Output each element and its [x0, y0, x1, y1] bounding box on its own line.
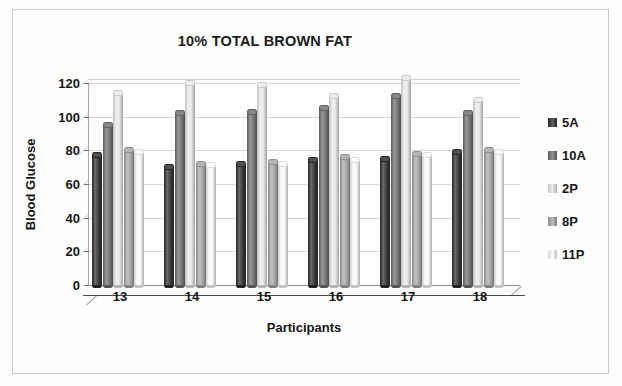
bar-8p-15 — [268, 162, 278, 285]
bar-top-ellipse — [113, 90, 123, 96]
bar-10a-16 — [319, 108, 329, 285]
bar-body — [257, 85, 267, 285]
plot-area: 020406080100120 131415161718 — [88, 83, 520, 285]
x-axis-title: Participants — [88, 320, 520, 335]
bar-11p-17 — [422, 155, 432, 285]
bar-top-ellipse — [422, 152, 432, 158]
y-axis-title-text: Blood Glucose — [24, 138, 39, 230]
chart-wall-top-edge — [88, 79, 520, 80]
bar-2p-13 — [113, 93, 123, 285]
bar-2p-16 — [329, 96, 339, 285]
bar-top-ellipse — [196, 161, 206, 167]
bar-top-ellipse — [473, 97, 483, 103]
bar-group — [88, 83, 160, 285]
bar-body — [329, 96, 339, 285]
bar-top-ellipse — [380, 156, 390, 162]
legend-label: 10A — [562, 148, 586, 163]
bar-body — [185, 83, 195, 285]
chart-legend: 5A10A2P8P11P — [548, 106, 606, 271]
bar-body — [308, 160, 318, 285]
bar-body — [319, 108, 329, 285]
bar-group — [448, 83, 520, 285]
legend-item-8p[interactable]: 8P — [548, 205, 606, 238]
legend-item-2p[interactable]: 2P — [548, 172, 606, 205]
bar-group — [232, 83, 304, 285]
bar-top-ellipse — [134, 149, 144, 155]
y-axis-title: Blood Glucose — [22, 84, 40, 284]
bar-body — [92, 155, 102, 285]
bar-body — [412, 154, 422, 285]
bar-body — [463, 113, 473, 285]
y-axis-tick-label: 0 — [73, 278, 80, 293]
bar-body — [401, 78, 411, 285]
bar-body — [473, 100, 483, 285]
bar-body — [103, 125, 113, 285]
bar-11p-15 — [278, 164, 288, 285]
legend-label: 8P — [562, 214, 578, 229]
x-axis-tick-label: 14 — [162, 289, 222, 304]
bar-body — [164, 167, 174, 285]
bar-body — [124, 150, 134, 285]
bar-5a-16 — [308, 160, 318, 285]
bar-body — [236, 164, 246, 285]
bar-5a-15 — [236, 164, 246, 285]
legend-swatch-2p — [548, 184, 557, 193]
bar-top-ellipse — [401, 75, 411, 81]
bar-8p-18 — [484, 150, 494, 285]
bar-5a-13 — [92, 155, 102, 285]
bar-top-ellipse — [340, 154, 350, 160]
y-axis-tick-label: 60 — [66, 177, 80, 192]
bar-group — [376, 83, 448, 285]
y-axis-tick-label: 20 — [66, 244, 80, 259]
x-axis-tick-label: 13 — [90, 289, 150, 304]
bar-top-ellipse — [412, 151, 422, 157]
bar-group — [304, 83, 376, 285]
bar-body — [247, 112, 257, 285]
bar-body — [422, 155, 432, 285]
bar-top-ellipse — [257, 82, 267, 88]
bar-top-ellipse — [236, 161, 246, 167]
x-axis-tick-label: 18 — [450, 289, 510, 304]
bar-top-ellipse — [484, 147, 494, 153]
bar-8p-16 — [340, 157, 350, 285]
legend-item-10a[interactable]: 10A — [548, 139, 606, 172]
chart-page: 10% TOTAL BROWN FAT Blood Glucose 020406… — [0, 0, 622, 386]
legend-swatch-8p — [548, 217, 557, 226]
bar-11p-14 — [206, 165, 216, 285]
bar-top-ellipse — [247, 109, 257, 115]
bar-top-ellipse — [124, 147, 134, 153]
legend-label: 2P — [562, 181, 578, 196]
x-axis-tick-label: 17 — [378, 289, 438, 304]
bar-5a-18 — [452, 152, 462, 285]
bar-10a-17 — [391, 96, 401, 285]
bar-body — [134, 152, 144, 285]
bar-top-ellipse — [350, 157, 360, 163]
bar-body — [391, 96, 401, 285]
bar-2p-17 — [401, 78, 411, 285]
bar-10a-13 — [103, 125, 113, 285]
legend-swatch-5a — [548, 118, 557, 127]
bar-8p-13 — [124, 150, 134, 285]
bar-top-ellipse — [494, 149, 504, 155]
bar-top-ellipse — [278, 161, 288, 167]
bar-8p-14 — [196, 164, 206, 285]
bar-body — [350, 160, 360, 285]
legend-item-11p[interactable]: 11P — [548, 238, 606, 271]
bar-top-ellipse — [164, 164, 174, 170]
bar-top-ellipse — [391, 93, 401, 99]
x-axis-tick-label: 15 — [234, 289, 294, 304]
legend-item-5a[interactable]: 5A — [548, 106, 606, 139]
bar-top-ellipse — [268, 159, 278, 165]
bar-body — [380, 159, 390, 285]
bar-top-ellipse — [308, 157, 318, 163]
legend-swatch-11p — [548, 250, 557, 259]
bar-top-ellipse — [103, 122, 113, 128]
bar-5a-14 — [164, 167, 174, 285]
y-axis-tick-label: 120 — [58, 76, 80, 91]
bar-10a-14 — [175, 113, 185, 285]
bar-body — [278, 164, 288, 285]
bar-2p-18 — [473, 100, 483, 285]
bar-5a-17 — [380, 159, 390, 285]
bar-11p-18 — [494, 152, 504, 285]
bar-top-ellipse — [175, 110, 185, 116]
